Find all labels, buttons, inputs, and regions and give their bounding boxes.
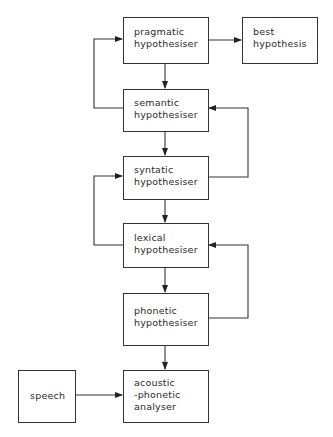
best-hypothesis-label: best hypothesis bbox=[253, 26, 307, 50]
edge-semantic-pragmatic-loop bbox=[94, 39, 123, 108]
syntatic-hypothesiser-label: syntatic hypothesiser bbox=[134, 164, 198, 188]
edge-syntatic-semantic-loop bbox=[208, 108, 248, 177]
lexical-hypothesiser-label: lexical hypothesiser bbox=[134, 232, 198, 256]
edge-phonetic-lexical-loop bbox=[208, 245, 248, 318]
semantic-hypothesiser-label: semantic hypothesiser bbox=[134, 97, 198, 121]
speech-label: speech bbox=[30, 390, 65, 402]
acoustic-phonetic-analyser-label: acoustic -phonetic analyser bbox=[134, 377, 181, 413]
pragmatic-hypothesiser-label: pragmatic hypothesiser bbox=[134, 26, 198, 50]
phonetic-hypothesiser-label: phonetic hypothesiser bbox=[134, 305, 198, 329]
edge-lexical-syntatic-loop bbox=[94, 176, 123, 245]
